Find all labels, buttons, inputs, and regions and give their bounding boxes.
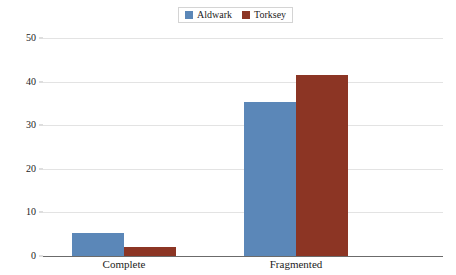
legend-entry-aldwark: Aldwark [185,10,232,20]
bar-torksey-fragmented [296,75,348,256]
gridline-40 [43,82,443,83]
y-tick-label-40: 40 [26,77,36,87]
legend-entry-torksey: Torksey [242,10,286,20]
bar-aldwark-fragmented [244,102,296,256]
x-axis-line [43,256,443,257]
y-tick-mark-20 [39,168,43,169]
chart-legend: Aldwark Torksey [178,7,293,23]
legend-swatch-aldwark [185,11,193,19]
y-tick-mark-40 [39,81,43,82]
bar-torksey-complete [124,247,176,256]
y-tick-mark-30 [39,125,43,126]
plot-area: 01020304050 [43,38,443,256]
gridline-50 [43,38,443,39]
y-tick-label-30: 30 [26,120,36,130]
y-tick-mark-50 [39,38,43,39]
bar-aldwark-complete [72,233,124,256]
y-tick-label-50: 50 [26,33,36,43]
legend-label-torksey: Torksey [254,10,286,20]
x-axis-label-complete: Complete [103,259,146,270]
bar-chart: Aldwark Torksey 01020304050 CompleteFrag… [0,0,456,275]
gridline-10 [43,212,443,213]
y-tick-mark-10 [39,212,43,213]
gridline-20 [43,169,443,170]
legend-swatch-torksey [242,11,250,19]
legend-label-aldwark: Aldwark [197,10,232,20]
y-tick-label-0: 0 [31,251,36,261]
y-tick-label-20: 20 [26,164,36,174]
x-axis-label-fragmented: Fragmented [270,259,323,270]
y-tick-label-10: 10 [26,207,36,217]
gridline-30 [43,125,443,126]
